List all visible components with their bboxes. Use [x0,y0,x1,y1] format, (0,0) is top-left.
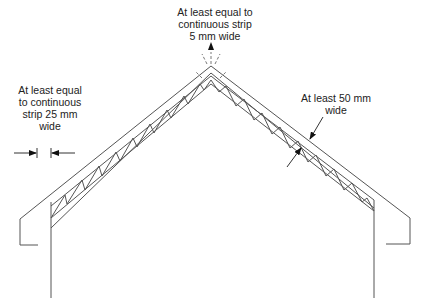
ridge-label-line-3: 5 mm wide [152,30,278,42]
eaves-label-line-2: to continuous [2,96,98,108]
roof-section-drawing [0,0,422,307]
ridge-label-line-2: continuous strip [152,18,278,30]
eaves-label-line-3: strip 25 mm [2,108,98,120]
eaves-label-line-1: At least equal [2,84,98,96]
eaves-vent-label: At least equal to continuous strip 25 mm… [2,84,98,132]
eaves-label-line-4: wide [2,120,98,132]
air-gap-label: At least 50 mm wide [288,92,384,116]
gap-label-line-1: At least 50 mm [288,92,384,104]
gap-label-line-2: wide [288,104,384,116]
ridge-arrow-icon [208,42,214,50]
ridge-label-line-1: At least equal to [152,6,278,18]
ridge-vent-label: At least equal to continuous strip 5 mm … [152,6,278,42]
